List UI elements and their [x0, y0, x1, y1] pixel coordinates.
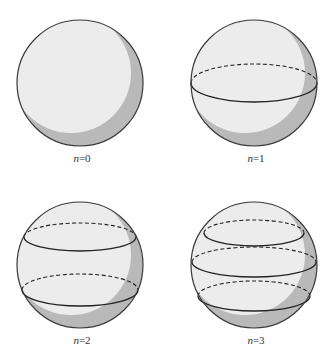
panel-label: n=1: [247, 152, 264, 164]
label-value: =3: [253, 334, 265, 346]
sphere-shadow: [11, 13, 143, 146]
sphere-panel-n0: n=0: [11, 13, 143, 164]
sphere-panel-n3: n=3: [185, 195, 317, 346]
sphere-shadow: [185, 195, 317, 328]
label-value: =0: [79, 152, 91, 164]
spheres-diagram: n=0n=1n=2n=3: [0, 0, 327, 364]
label-value: =2: [79, 334, 91, 346]
sphere-panel-n1: n=1: [185, 13, 317, 164]
sphere-shadow: [185, 13, 317, 146]
label-value: =1: [253, 152, 265, 164]
sphere-panel-n2: n=2: [11, 195, 143, 346]
panel-label: n=2: [73, 334, 90, 346]
sphere-shadow: [11, 195, 143, 328]
panel-label: n=3: [247, 334, 265, 346]
panel-label: n=0: [73, 152, 91, 164]
